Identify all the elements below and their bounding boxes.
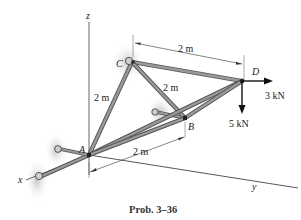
dim-arrow-top-right: [236, 62, 242, 65]
ball-socket-b: [152, 109, 158, 115]
dim-arrow-bottom-left: [90, 168, 97, 172]
joint-a: [87, 153, 91, 157]
axis-label-z: z: [85, 10, 90, 21]
load-label-3kn: 3 kN: [265, 90, 285, 101]
dim-arrow-bottom-right: [178, 137, 184, 141]
truss-members: [42, 62, 242, 176]
load-label-5kn: 5 kN: [229, 118, 249, 129]
dim-label-ac: 2 m: [94, 92, 110, 103]
load-5kn-arrowhead: [239, 105, 246, 114]
y-axis: [89, 155, 298, 188]
axis-label-y: y: [251, 181, 257, 192]
point-label-a: A: [78, 144, 86, 155]
dim-label-cb: 2 m: [163, 82, 179, 93]
dim-label-cd: 2 m: [178, 43, 194, 54]
ball-socket-x: [35, 172, 42, 179]
joint-b: [183, 116, 187, 120]
dim-label-ab: 2 m: [133, 146, 149, 157]
axis-label-x: x: [17, 174, 23, 185]
point-label-b: B: [188, 121, 194, 132]
support-shadow-a2: [25, 158, 49, 202]
figure-caption: Prob. 3–36: [129, 204, 177, 215]
truss-diagram: z y x C D A B 2 m 2 m 2 m 2 m 3 kN 5 kN …: [0, 0, 301, 220]
ball-socket-a: [55, 146, 62, 153]
load-3kn-arrowhead: [264, 78, 273, 85]
point-label-c: C: [116, 58, 123, 69]
point-label-d: D: [251, 66, 260, 77]
space-truss-figure: z y x C D A B 2 m 2 m 2 m 2 m 3 kN 5 kN …: [0, 0, 301, 220]
